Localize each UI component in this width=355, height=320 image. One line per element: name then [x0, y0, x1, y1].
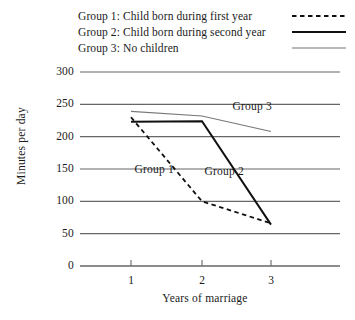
y-axis-title: Minutes per day	[15, 81, 27, 211]
legend-item-group-2: Group 2: Child born during second year	[78, 24, 348, 40]
x-axis	[80, 260, 340, 266]
y-tick-label-200: 200	[28, 131, 74, 143]
y-tick-label-150: 150	[28, 163, 74, 175]
y-tick-label-100: 100	[28, 195, 74, 207]
legend-item-group-3: Group 3: No children	[78, 40, 348, 56]
series-line-group-3	[131, 111, 271, 131]
x-tick-label-3: 3	[259, 275, 283, 287]
y-tick-label-0: 0	[28, 260, 74, 272]
y-tick-label-300: 300	[28, 66, 74, 78]
x-tick-label-2: 2	[190, 275, 214, 287]
legend-swatch-group-1-dashed	[290, 8, 348, 24]
x-tick-label-1: 1	[119, 275, 143, 287]
chart-figure: Group 1: Child born during first year Gr…	[0, 0, 355, 320]
y-tick-label-250: 250	[28, 98, 74, 110]
annotation-group-3: Group 3	[233, 101, 272, 113]
x-axis-title: Years of marriage	[120, 292, 290, 304]
legend-swatch-group-2-solid-thick	[290, 24, 348, 40]
y-tick-label-50: 50	[28, 228, 74, 240]
annotation-group-2: Group 2	[205, 166, 244, 178]
annotation-group-1: Group 1	[135, 164, 174, 176]
legend-label-group-2: Group 2: Child born during second year	[78, 24, 266, 40]
legend-label-group-1: Group 1: Child born during first year	[78, 8, 252, 24]
chart-legend: Group 1: Child born during first year Gr…	[78, 8, 348, 56]
legend-item-group-1: Group 1: Child born during first year	[78, 8, 348, 24]
legend-swatch-group-3-solid-thin	[290, 40, 348, 56]
legend-label-group-3: Group 3: No children	[78, 40, 179, 56]
